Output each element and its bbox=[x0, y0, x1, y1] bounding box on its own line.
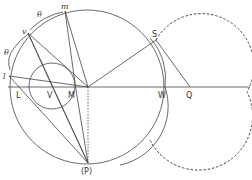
label-P: (P) bbox=[81, 167, 92, 176]
label-theta-lower: θ bbox=[4, 48, 9, 57]
theta-bracket-upper bbox=[30, 12, 63, 30]
label-l: l bbox=[3, 72, 6, 81]
label-M: M bbox=[68, 91, 75, 100]
label-m: m bbox=[61, 2, 69, 11]
solid-arc-w bbox=[120, 38, 168, 165]
diagram-canvas: l v m θ θ S L V M W Q (P) bbox=[0, 0, 252, 180]
line-m-M bbox=[65, 11, 76, 90]
label-S: S bbox=[152, 30, 157, 39]
line-center-s bbox=[88, 40, 156, 87]
line-v-V bbox=[28, 33, 52, 86]
line-m-center bbox=[65, 11, 88, 87]
line-v-center bbox=[28, 33, 88, 87]
label-V: V bbox=[47, 91, 53, 100]
label-v: v bbox=[22, 27, 27, 36]
label-theta-upper: θ bbox=[37, 10, 42, 19]
line-s-q bbox=[156, 40, 190, 87]
label-L: L bbox=[16, 91, 21, 100]
label-W: W bbox=[158, 91, 166, 100]
geometry-diagram: l v m θ θ S L V M W Q (P) bbox=[0, 0, 252, 180]
label-Q: Q bbox=[186, 91, 192, 100]
